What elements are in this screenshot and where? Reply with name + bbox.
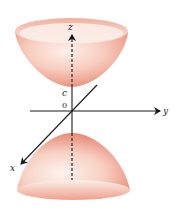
origin-label: 0	[62, 101, 67, 110]
hyperboloid-diagram: z y x c 0	[0, 0, 181, 209]
lower-sheet	[17, 133, 130, 200]
z-axis-label: z	[67, 22, 73, 32]
vertex-label-c: c	[62, 88, 67, 98]
y-axis-label: y	[162, 106, 169, 116]
x-axis-label: x	[10, 163, 15, 173]
